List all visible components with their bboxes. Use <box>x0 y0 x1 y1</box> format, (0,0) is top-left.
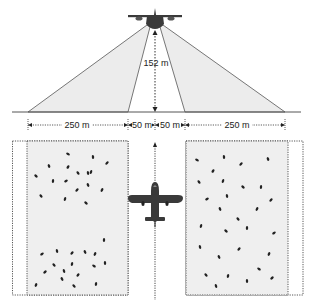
arrow-down-icon <box>153 107 158 112</box>
arrow-left-icon <box>185 123 189 127</box>
dimension-row: 250 m 50 m 50 m 250 m <box>28 119 285 131</box>
arrow-left-icon <box>28 123 32 127</box>
left-counting-zone <box>27 141 128 295</box>
arrow-right-icon <box>181 123 185 127</box>
dimension-label-right-inner: 50 m <box>160 120 180 130</box>
arrow-left-icon <box>155 123 159 127</box>
aircraft-front-view-icon <box>128 8 182 29</box>
right-survey-strip <box>186 141 303 295</box>
arrow-up-icon <box>153 142 157 147</box>
aircraft-top-view-icon <box>128 182 183 227</box>
left-survey-strip <box>13 141 129 295</box>
dimension-label-left-outer: 250 m <box>64 120 89 130</box>
dimension-label-right-outer: 250 m <box>224 120 249 130</box>
left-observation-cone <box>28 25 150 112</box>
altitude-label: 152 m <box>143 58 168 68</box>
arrow-up-icon <box>153 30 158 35</box>
dimension-label-left-inner: 50 m <box>132 120 152 130</box>
right-observation-cone <box>160 25 285 112</box>
arrow-right-icon <box>124 123 128 127</box>
arrow-right-icon <box>281 123 285 127</box>
aerial-survey-diagram: 152 m 250 m 50 m <box>0 0 310 304</box>
